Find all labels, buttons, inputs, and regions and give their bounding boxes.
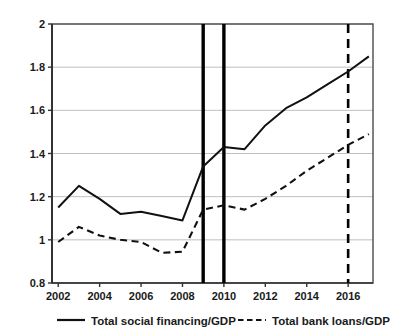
y-axis-label-1.8: 1.8 (30, 61, 45, 73)
legend-label-total-bank-loans-gdp: Total bank loans/GDP (272, 315, 390, 327)
x-axis-label-2014: 2014 (294, 290, 319, 302)
x-axis-label-2012: 2012 (253, 290, 277, 302)
x-axis-label-2010: 2010 (212, 290, 236, 302)
y-axis-label-1.6: 1.6 (30, 104, 45, 116)
y-axis-label-0.8: 0.8 (30, 277, 45, 289)
y-axis-label-2: 2 (39, 18, 45, 30)
legend-label-total-social-financing-gdp: Total social financing/GDP (91, 315, 236, 327)
line-chart: 21.81.61.41.210.8 2002200420062008201020… (0, 0, 395, 336)
x-axis-label-2002: 2002 (46, 290, 70, 302)
x-axis-label-2008: 2008 (170, 290, 194, 302)
chart-container: 21.81.61.41.210.8 2002200420062008201020… (0, 0, 395, 336)
x-axis-label-2004: 2004 (87, 290, 112, 302)
y-axis-label-1: 1 (39, 234, 45, 246)
x-axis-label-2016: 2016 (336, 290, 360, 302)
y-axis-label-1.4: 1.4 (30, 148, 46, 160)
x-axis-label-2006: 2006 (129, 290, 153, 302)
y-axis-label-1.2: 1.2 (30, 191, 45, 203)
chart-legend: Total social financing/GDPTotal bank loa… (57, 315, 390, 327)
chart-background (0, 0, 395, 336)
